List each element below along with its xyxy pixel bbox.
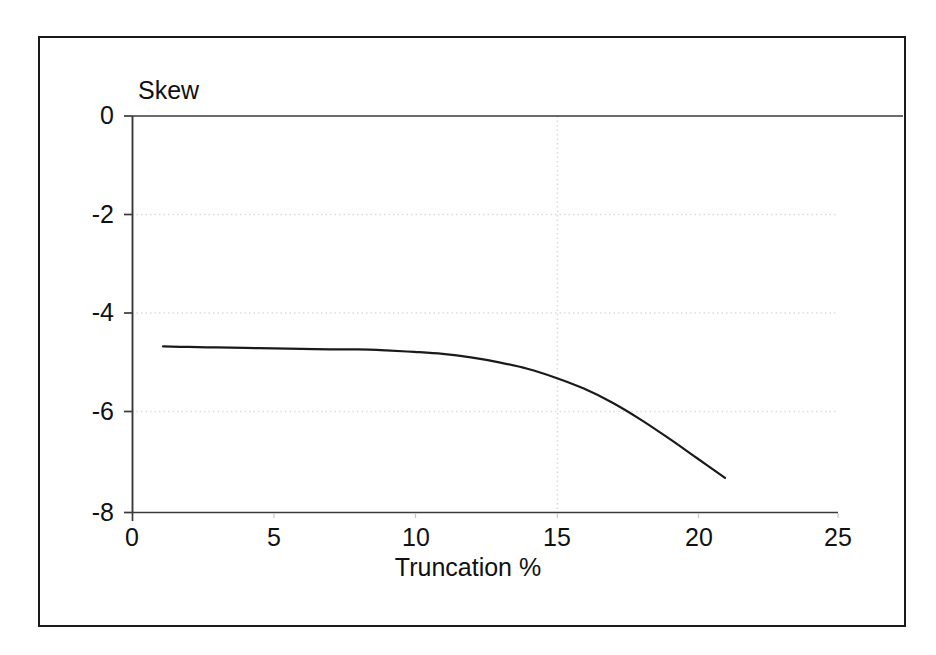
x-tick-label-10: 10 <box>392 525 440 550</box>
y-tick-label-0: 0 <box>68 103 114 128</box>
x-tick-label-15: 15 <box>533 525 581 550</box>
y-tick-label-minus4: -4 <box>58 300 114 325</box>
y-axis-title: Skew <box>138 78 199 103</box>
y-tick-label-minus8: -8 <box>58 500 114 525</box>
y-axis-ticks <box>124 116 132 513</box>
gridlines-horizontal <box>132 215 838 412</box>
x-axis-ticks <box>133 513 839 521</box>
x-tick-label-0: 0 <box>112 525 152 550</box>
y-tick-label-minus2: -2 <box>58 202 114 227</box>
y-tick-label-minus6: -6 <box>58 399 114 424</box>
x-tick-label-5: 5 <box>254 525 294 550</box>
x-tick-label-25: 25 <box>814 525 862 550</box>
figure-canvas: 0 -2 -4 -6 -8 0 5 10 15 20 25 Skew Trunc… <box>0 0 936 655</box>
x-tick-label-20: 20 <box>675 525 723 550</box>
x-axis-title: Truncation % <box>0 555 936 580</box>
